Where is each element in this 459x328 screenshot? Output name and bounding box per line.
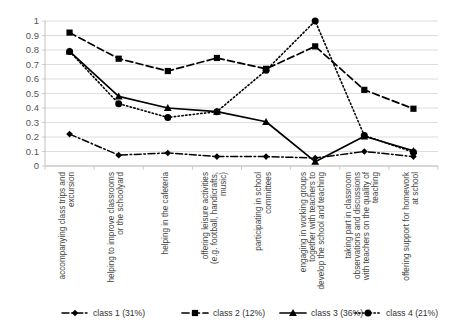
y-axis-tick-labels: 00.10.20.30.40.50.60.70.80.91 [26,15,39,171]
x-category-label-line: accompanying class trips and [58,172,67,280]
data-point-square-marker [214,55,220,61]
y-tick-label: 0.6 [26,73,39,84]
data-point-square-marker [192,310,198,316]
data-point-square-marker [410,106,416,112]
series-line [70,51,414,161]
data-point-circle-marker [365,310,372,317]
legend-label: class 2 (12%) [213,308,265,318]
legend-item-2[interactable]: class 2 (12%) [182,308,265,318]
x-category-label: taking part in classroomobservations and… [344,171,381,281]
chart-legend: class 1 (31%)class 2 (12%)class 3 (36%)c… [62,308,438,318]
data-point-diamond-marker [214,153,221,160]
y-tick-label: 0.7 [26,59,39,70]
data-point-diamond-marker [165,150,172,157]
x-category-label: offering leisure activities(e.g. footbal… [201,172,228,264]
y-tick-label: 0.4 [26,102,39,113]
x-category-label-line: or the schoolyard [116,172,125,235]
x-category-label: engaging in working groupstogether with … [299,172,326,290]
x-category-label-line: offering leisure activities [201,172,210,259]
data-point-square-marker [66,30,72,36]
x-category-label: offering support for homeworkat school [402,171,420,281]
data-point-diamond-marker [66,131,73,138]
y-tick-label: 0.3 [26,117,39,128]
legend-label: class 4 (21%) [386,308,438,318]
y-tick-label: 0.2 [26,131,39,142]
series-4 [66,18,417,156]
x-category-label-line: at school [411,172,420,205]
data-point-square-marker [116,56,122,62]
gridlines [45,21,438,166]
x-category-label: participating in schoolcommittees [254,172,272,251]
x-category-label-line: participating in school [254,172,263,251]
data-point-circle-marker [410,149,417,156]
legend-item-3[interactable]: class 3 (36%) [280,308,363,318]
y-tick-label: 0.9 [26,30,39,41]
data-point-diamond-marker [72,310,79,317]
x-category-label-line: committees [264,172,273,214]
x-axis-category-labels: accompanying class trips andexcursionhel… [58,171,420,289]
data-point-diamond-marker [115,152,122,159]
x-category-label-line: observations and discussions [353,172,362,279]
x-category-label: helping in the cafeteria [161,172,170,255]
data-point-diamond-marker [263,153,270,160]
x-category-label-line: offering support for homework [402,171,411,281]
y-tick-label: 0.1 [26,146,39,157]
data-point-square-marker [361,87,367,93]
line-chart: 00.10.20.30.40.50.60.70.80.91 accompanyi… [0,0,459,328]
x-category-label: accompanying class trips andexcursion [58,172,76,280]
data-point-circle-marker [312,18,319,25]
legend-label: class 1 (31%) [93,308,145,318]
data-point-circle-marker [164,114,171,121]
data-point-circle-marker [115,100,122,107]
x-category-label-line: helping in the cafeteria [161,172,170,255]
x-category-label-line: together with teachers to [308,172,317,262]
data-point-square-marker [312,43,318,49]
legend-item-4[interactable]: class 4 (21%) [355,308,438,318]
x-category-label-line: (e.g. football, handicrafts, [210,172,219,264]
chart-container: 00.10.20.30.40.50.60.70.80.91 accompanyi… [0,0,459,328]
x-category-label-line: develop the school and teaching [317,172,326,290]
data-point-square-marker [165,68,171,74]
data-point-circle-marker [361,132,368,139]
y-tick-label: 0.8 [26,44,39,55]
legend-item-1[interactable]: class 1 (31%) [62,308,145,318]
y-tick-label: 0.5 [26,88,39,99]
x-category-label-line: engaging in working groups [299,172,308,272]
data-point-circle-marker [263,67,270,74]
data-point-circle-marker [66,48,73,55]
y-tick-label: 0 [34,160,39,171]
x-category-label-line: excursion [67,172,76,207]
x-category-label-line: taking part in classroom [344,172,353,259]
x-category-label-line: teaching [371,172,380,203]
data-point-diamond-marker [361,148,368,155]
data-point-circle-marker [213,108,220,115]
y-tick-label: 1 [34,15,39,26]
x-category-label-line: music) [219,172,228,196]
x-category-label: helping to improve classroomsor the scho… [107,172,125,283]
data-series-layer [66,18,418,165]
x-category-label-line: helping to improve classrooms [107,172,116,283]
x-category-label-line: with teachers on the quality of [362,171,371,281]
series-line [70,21,414,152]
